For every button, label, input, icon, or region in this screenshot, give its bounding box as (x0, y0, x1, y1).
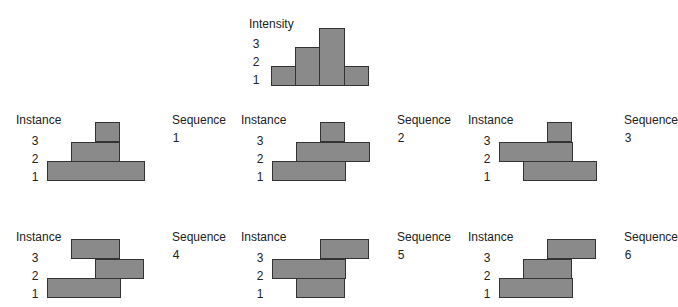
sequence-label: Sequence (624, 230, 678, 244)
instance-1-bar (296, 278, 345, 298)
y-label-1: 1 (251, 73, 261, 87)
instance-label: Instance (468, 230, 513, 244)
row-label-1: 1 (482, 170, 492, 184)
instance-1-bar (499, 278, 573, 298)
instance-3-bar (71, 239, 120, 259)
row-label-2: 2 (255, 269, 265, 283)
row-label-1: 1 (255, 287, 265, 301)
sequence-panel-4: InstanceSequence4321 (0, 227, 215, 307)
instance-1-bar (523, 161, 597, 181)
row-label-3: 3 (30, 134, 40, 148)
sequence-label: Sequence (397, 113, 451, 127)
instance-2-bar (499, 142, 573, 162)
sequence-panel-2: InstanceSequence2321 (225, 110, 440, 195)
row-label-1: 1 (255, 170, 265, 184)
instance-2-bar (296, 142, 370, 162)
sequence-panel-3: InstanceSequence3321 (452, 110, 667, 195)
instance-3-bar (320, 239, 369, 259)
sequence-label: Sequence (172, 230, 226, 244)
row-label-3: 3 (482, 134, 492, 148)
sequence-number: 1 (171, 131, 181, 145)
instance-label: Instance (16, 230, 61, 244)
intensity-bar (344, 66, 369, 86)
row-label-2: 2 (30, 269, 40, 283)
row-label-1: 1 (482, 287, 492, 301)
instance-3-bar (95, 122, 120, 142)
instance-label: Instance (16, 113, 61, 127)
instance-label: Instance (468, 113, 513, 127)
y-label-3: 3 (251, 37, 261, 51)
sequence-number: 5 (396, 248, 406, 262)
row-label-3: 3 (255, 134, 265, 148)
sequence-number: 6 (623, 248, 633, 262)
row-label-3: 3 (30, 251, 40, 265)
row-label-3: 3 (255, 251, 265, 265)
sequence-number: 3 (623, 131, 633, 145)
row-label-2: 2 (255, 152, 265, 166)
y-label-2: 2 (251, 55, 261, 69)
sequence-number: 4 (171, 248, 181, 262)
row-label-2: 2 (482, 152, 492, 166)
instance-3-bar (320, 122, 345, 142)
instance-label: Instance (241, 113, 286, 127)
intensity-bar (271, 66, 296, 86)
sequence-label: Sequence (172, 113, 226, 127)
sequence-label: Sequence (624, 113, 678, 127)
intensity-title: Intensity (249, 17, 294, 31)
row-label-1: 1 (30, 170, 40, 184)
sequence-label: Sequence (397, 230, 451, 244)
sequence-panel-1: InstanceSequence1321 (0, 110, 215, 195)
row-label-1: 1 (30, 287, 40, 301)
row-label-2: 2 (30, 152, 40, 166)
instance-2-bar (95, 259, 144, 279)
instance-3-bar (547, 122, 572, 142)
sequence-number: 2 (396, 131, 406, 145)
instance-2-bar (71, 142, 120, 162)
row-label-2: 2 (482, 269, 492, 283)
intensity-bar (295, 47, 320, 86)
row-label-3: 3 (482, 251, 492, 265)
instance-1-bar (47, 161, 145, 181)
intensity-bar (319, 28, 345, 86)
instance-2-bar (272, 259, 346, 279)
instance-1-bar (47, 278, 121, 298)
instance-label: Instance (241, 230, 286, 244)
sequence-panel-5: InstanceSequence5321 (225, 227, 440, 307)
sequence-panel-6: InstanceSequence6321 (452, 227, 667, 307)
instance-3-bar (547, 239, 596, 259)
instance-1-bar (272, 161, 346, 181)
instance-2-bar (523, 259, 572, 279)
